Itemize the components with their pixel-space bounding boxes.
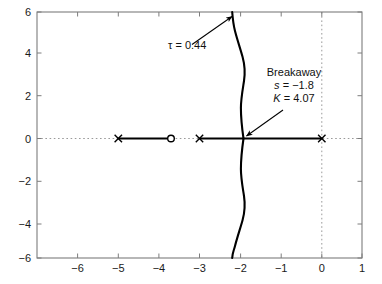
breakaway-annotation-s: s = −1.8 [274, 79, 314, 91]
tau-annotation-label: τ = 0.44 [168, 39, 206, 51]
plot-svg: −6 −5 −4 −3 −2 −1 0 1 6 4 2 0 −2 −4 −6 [0, 0, 382, 284]
ytick-label-6: 6 [25, 6, 31, 18]
breakaway-k-value: = 4.07 [281, 92, 315, 104]
zero-marker-minus3p5 [168, 135, 175, 142]
ytick-label-minus2: −2 [18, 175, 31, 187]
xtick-label-1: 1 [359, 262, 365, 274]
ytick-label-2: 2 [25, 90, 31, 102]
xtick-label-minus1: −1 [275, 262, 288, 274]
xtick-label-minus4: −4 [153, 262, 166, 274]
xtick-label-minus3: −3 [193, 262, 206, 274]
ytick-label-minus6: −6 [18, 252, 31, 264]
breakaway-annotation-title: Breakaway [267, 66, 322, 78]
xtick-label-minus5: −5 [112, 262, 125, 274]
ytick-label-4: 4 [25, 47, 31, 59]
ytick-label-0: 0 [25, 133, 31, 145]
breakaway-annotation-k: K = 4.07 [273, 92, 314, 104]
xtick-label-0: 0 [319, 262, 325, 274]
breakaway-s-value: = −1.8 [280, 79, 314, 91]
xtick-label-minus2: −2 [234, 262, 247, 274]
xtick-label-minus6: −6 [71, 262, 84, 274]
root-locus-figure: −6 −5 −4 −3 −2 −1 0 1 6 4 2 0 −2 −4 −6 [0, 0, 382, 284]
ytick-label-minus4: −4 [18, 218, 31, 230]
